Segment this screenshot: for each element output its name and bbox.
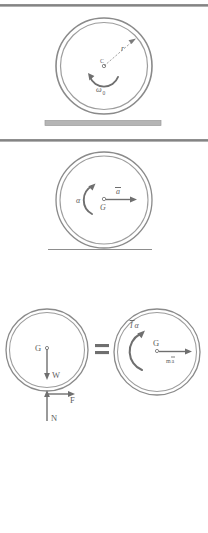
friction-label: F	[70, 395, 75, 405]
panel-initial-spin: r C ω 0	[0, 0, 208, 140]
normal-label: N	[51, 413, 57, 423]
center-point-marker	[102, 197, 105, 200]
figure-canvas: r C ω 0 α G a	[0, 0, 208, 533]
panel-free-body-drawing: G W F N G	[0, 270, 208, 533]
weight-label: W	[52, 370, 60, 380]
momentum-label: m	[166, 358, 171, 364]
radius-arrowhead	[129, 39, 137, 45]
center-label: C	[100, 58, 104, 64]
ground-bar	[45, 121, 161, 126]
wheel-outer-ring	[56, 152, 152, 248]
acceleration-vector-arrowhead	[130, 197, 137, 203]
moment-label-suffix: α	[135, 321, 140, 330]
moment-arrowhead	[137, 331, 145, 339]
angular-velocity-label: ω	[96, 85, 102, 94]
momentum-label-suffix: a	[172, 358, 175, 364]
equals-sign	[95, 344, 109, 354]
panel-acceleration: α G a	[0, 140, 208, 270]
moment-arc	[130, 334, 142, 370]
angular-acceleration-arrowhead	[88, 184, 95, 191]
angular-acceleration-label: α	[76, 196, 81, 205]
kinetic-center-label: G	[153, 338, 159, 348]
momentum-vector-arrowhead	[185, 349, 192, 355]
moment-label: I	[129, 321, 133, 330]
angular-velocity-subscript: 0	[103, 90, 106, 96]
kinetic-center-marker	[155, 349, 158, 352]
angular-acceleration-arc	[84, 186, 92, 214]
panel-acceleration-drawing: α G a	[0, 140, 208, 270]
weight-vector-arrowhead	[44, 373, 50, 380]
radius-line	[104, 41, 134, 67]
free-body-center-label: G	[35, 343, 41, 353]
center-label: G	[100, 203, 106, 212]
acceleration-label: a	[116, 187, 120, 196]
panel-free-body-equals-kinetic: G W F N G	[0, 270, 208, 533]
angular-velocity-arc	[90, 77, 118, 87]
panel-initial-spin-drawing: r C ω 0	[0, 0, 208, 140]
